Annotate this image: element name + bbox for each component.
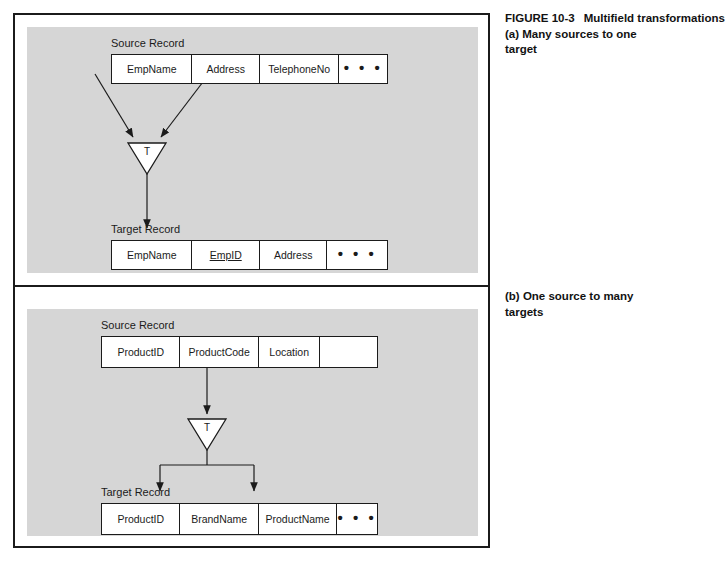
field-cell-ellipsis: • • •	[327, 241, 387, 269]
transform-label-b: T	[188, 422, 226, 433]
field-cell: ProductID	[102, 504, 180, 534]
target-record-label-a: Target Record	[111, 223, 180, 235]
field-cell-ellipsis: • • •	[339, 55, 387, 83]
target-record-b: ProductID BrandName ProductName • • •	[101, 503, 378, 535]
field-cell: Location	[259, 337, 321, 367]
field-cell: EmpName	[112, 55, 192, 83]
source-record-a: EmpName Address TelephoneNo • • •	[111, 54, 388, 84]
figure-caption-b-text: (b) One source to many targets	[505, 290, 633, 318]
figure-title: Multifield transformations	[584, 12, 725, 24]
panel-many-to-one: T Source Record EmpName Address Telephon…	[27, 27, 478, 273]
panel-one-to-many: T Source Record ProductID ProductCode Lo…	[27, 309, 478, 536]
figure-caption-a-text: (a) Many sources to one target	[505, 28, 637, 56]
field-cell-ellipsis: • • •	[337, 504, 377, 534]
target-record-a: EmpName EmpID Address • • •	[111, 240, 388, 270]
field-cell-key: EmpID	[192, 241, 260, 269]
field-cell: ProductName	[259, 504, 337, 534]
transform-label-a: T	[128, 146, 166, 157]
field-cell: BrandName	[180, 504, 258, 534]
panel-divider	[15, 285, 488, 287]
field-cell-empty	[320, 337, 377, 367]
source-record-label-b: Source Record	[101, 319, 174, 331]
figure-caption-a: FIGURE 10-3Multifield transformations (a…	[505, 11, 667, 58]
field-cell: ProductID	[102, 337, 180, 367]
field-cell: Address	[192, 55, 260, 83]
target-record-label-b: Target Record	[101, 486, 170, 498]
figure-number: FIGURE 10-3	[505, 12, 575, 24]
field-cell: TelephoneNo	[260, 55, 339, 83]
figure-frame: T Source Record EmpName Address Telephon…	[13, 13, 490, 548]
field-cell: ProductCode	[180, 337, 258, 367]
figure-caption-b: (b) One source to many targets	[505, 289, 667, 320]
field-cell: EmpName	[112, 241, 192, 269]
source-record-b: ProductID ProductCode Location	[101, 336, 378, 368]
source-record-label-a: Source Record	[111, 37, 184, 49]
field-cell: Address	[260, 241, 328, 269]
